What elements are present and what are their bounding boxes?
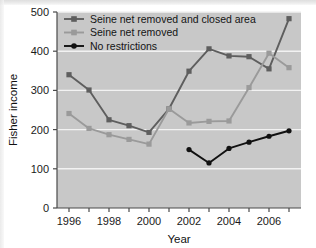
- data-point: [206, 46, 211, 51]
- line-chart: 0100200300400500 19961998200020022004200…: [0, 0, 316, 248]
- data-point: [66, 111, 71, 116]
- data-point: [126, 137, 131, 142]
- data-point: [186, 69, 191, 74]
- x-axis-title: Year: [167, 233, 190, 245]
- x-axis-ticks: [69, 208, 289, 212]
- y-tick-label-500: 500: [31, 6, 49, 18]
- x-tick-label-1998: 1998: [97, 215, 121, 227]
- data-point: [146, 142, 151, 147]
- data-point: [226, 53, 231, 58]
- x-tick-label-1996: 1996: [57, 215, 81, 227]
- x-tick-label-2002: 2002: [177, 215, 201, 227]
- y-tick-label-200: 200: [31, 124, 49, 136]
- y-tick-label-100: 100: [31, 163, 49, 175]
- data-point: [86, 126, 91, 131]
- legend-marker-2: [71, 43, 77, 49]
- y-tick-label-300: 300: [31, 84, 49, 96]
- data-point: [66, 72, 71, 77]
- data-point: [226, 146, 231, 151]
- data-point: [266, 66, 271, 71]
- scan-edge-band-left: [0, 0, 4, 248]
- data-point: [126, 123, 131, 128]
- data-point: [286, 65, 291, 70]
- legend-item-0[interactable]: Seine net removed and closed area: [64, 13, 256, 25]
- y-tick-label-400: 400: [31, 45, 49, 57]
- data-point: [206, 119, 211, 124]
- data-point: [186, 147, 191, 152]
- y-axis-title: Fisher income: [7, 74, 19, 146]
- data-point: [106, 132, 111, 137]
- data-point: [86, 87, 91, 92]
- x-axis-tick-labels: 199619982000200220042006: [57, 215, 281, 227]
- x-tick-label-2006: 2006: [257, 215, 281, 227]
- data-point: [266, 51, 271, 56]
- data-point: [206, 160, 211, 165]
- legend-label-1: Seine net removed: [90, 26, 178, 38]
- y-tick-label-0: 0: [43, 202, 49, 214]
- data-point: [286, 16, 291, 21]
- y-axis-tick-labels: 0100200300400500: [31, 6, 49, 214]
- chart-figure: 0100200300400500 19961998200020022004200…: [0, 0, 316, 248]
- data-point: [246, 85, 251, 90]
- data-point: [106, 117, 111, 122]
- data-point: [266, 134, 271, 139]
- x-tick-label-2004: 2004: [217, 215, 241, 227]
- data-point: [246, 140, 251, 145]
- data-point: [246, 54, 251, 59]
- data-point: [186, 120, 191, 125]
- legend-label-2: No restrictions: [90, 40, 157, 52]
- data-point: [286, 128, 291, 133]
- legend-marker-0: [71, 16, 77, 22]
- x-tick-label-2000: 2000: [137, 215, 161, 227]
- legend-marker-1: [71, 30, 77, 36]
- data-point: [226, 118, 231, 123]
- scan-edge-band-top: [0, 0, 316, 5]
- data-point: [146, 130, 151, 135]
- legend-label-0: Seine net removed and closed area: [90, 13, 256, 25]
- data-point: [166, 106, 171, 111]
